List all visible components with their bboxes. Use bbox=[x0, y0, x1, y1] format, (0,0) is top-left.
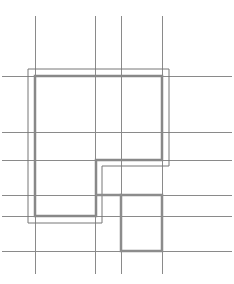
lower-region-outline bbox=[121, 195, 162, 251]
floor-plan-diagram bbox=[0, 0, 234, 284]
outer-outline bbox=[28, 69, 169, 223]
grid-lines bbox=[2, 16, 232, 274]
